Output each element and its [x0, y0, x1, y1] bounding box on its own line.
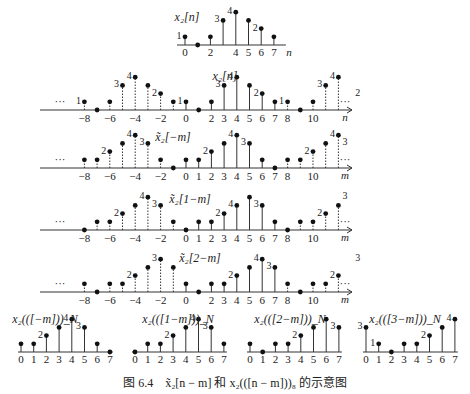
stem-dot [336, 133, 341, 138]
stem-dot [196, 108, 201, 113]
ellipsis-right: ··· [340, 277, 351, 289]
value-label: 2 [317, 207, 322, 218]
tick-label: 6 [259, 170, 265, 182]
stem-dot [222, 141, 227, 146]
value-label: 4 [446, 312, 451, 323]
value-label: 4 [330, 128, 335, 139]
axis-label-m: m [341, 231, 349, 243]
stem-dot [120, 281, 125, 286]
stem-dot [376, 341, 381, 346]
stem-dot [453, 317, 458, 322]
tick-label: 0 [363, 353, 369, 365]
stem-dot [95, 290, 100, 295]
value-label: 1 [76, 95, 81, 106]
tick-label: 6 [259, 232, 265, 244]
stem-dot [107, 99, 112, 104]
value-label: 2 [203, 145, 208, 156]
value-label: 2 [114, 207, 119, 218]
tick-label: 8 [285, 112, 291, 124]
tick-label: 5 [427, 353, 433, 365]
stem-dot [311, 99, 316, 104]
tick-label: 0 [132, 353, 138, 365]
tick-label: 10 [308, 112, 320, 124]
stem-dot [171, 265, 176, 270]
stem-dot [246, 18, 251, 23]
stem-dot [298, 333, 303, 338]
stem-dot [260, 203, 265, 208]
tick-label: 2 [273, 353, 279, 365]
tick-label: 5 [246, 46, 252, 58]
stem-dot [222, 281, 227, 286]
stem-dot [248, 341, 253, 346]
stem-dot [146, 265, 151, 270]
value-label: 2 [305, 145, 310, 156]
tick-label: 1 [196, 232, 202, 244]
stem-dot [286, 341, 291, 346]
stem-dot [184, 281, 189, 286]
stem-dot [298, 219, 303, 224]
stem-dot [146, 141, 151, 146]
stem-dot [323, 281, 328, 286]
tick-label: 3 [285, 353, 291, 365]
tick-label: 2 [208, 46, 214, 58]
stem-dot [133, 75, 138, 80]
value-label: 2 [228, 269, 233, 280]
tick-label: 6 [323, 353, 329, 365]
caption-text: x̃₂[n − m] 和 x₂(([n − m]))₈ 的示意图 [165, 376, 347, 390]
tick-label: 4 [414, 353, 420, 365]
stem-dot [260, 157, 265, 162]
tick-label: 4 [298, 353, 304, 365]
stem-dot [273, 265, 278, 270]
tick-label: 3 [401, 353, 407, 365]
stem-dot [95, 157, 100, 162]
tick-label: 2 [158, 353, 164, 365]
value-label: 2 [355, 87, 360, 98]
stem-dot [311, 281, 316, 286]
stem-dot [222, 341, 227, 346]
value-label: 3 [215, 13, 220, 24]
stem-dot [133, 133, 138, 138]
plot-title: x̃₂[2−m] [178, 251, 221, 265]
tick-label: 4 [234, 112, 240, 124]
tick-label: 2 [209, 112, 215, 124]
tick-label: −8 [79, 232, 91, 244]
value-label: 3 [343, 190, 348, 201]
caption-prefix: 图 6.4 [123, 376, 153, 390]
stem-dot [158, 257, 163, 262]
tick-label: 6 [439, 353, 445, 365]
value-label: 2 [38, 329, 43, 340]
stem-dot [323, 83, 328, 88]
ellipsis-right: ··· [340, 153, 351, 165]
stem-dot [133, 273, 138, 278]
tick-label: 7 [272, 232, 278, 244]
stem-dot [95, 219, 100, 224]
tick-label: 10 [308, 294, 320, 306]
value-label: 2 [421, 329, 426, 340]
stem-dot [273, 219, 278, 224]
plot-x2_periodic [40, 75, 352, 113]
stem-dot [234, 133, 239, 138]
stem-dot [298, 290, 303, 295]
tick-label: 4 [183, 353, 189, 365]
tick-label: 7 [107, 353, 113, 365]
plot-title: x̃₂[−m] [154, 130, 191, 144]
value-label: 2 [292, 329, 297, 340]
tick-label: 5 [196, 353, 202, 365]
stem-dot [221, 18, 226, 23]
stem-dot [158, 91, 163, 96]
value-label: 1 [177, 30, 182, 41]
ellipsis-left: ··· [55, 153, 66, 165]
value-label: 4 [330, 70, 335, 81]
tick-label: 6 [208, 353, 214, 365]
tick-label: −6 [104, 112, 116, 124]
stem-dot [260, 91, 265, 96]
tick-label: 7 [336, 353, 342, 365]
tick-label: 5 [247, 170, 253, 182]
value-label: 4 [254, 252, 259, 263]
stem-dot [298, 108, 303, 113]
stem-dot [82, 281, 87, 286]
stem-dot [402, 341, 407, 346]
value-label: 2 [253, 22, 258, 33]
value-label: 3 [254, 198, 259, 209]
tick-label: 0 [247, 353, 253, 365]
